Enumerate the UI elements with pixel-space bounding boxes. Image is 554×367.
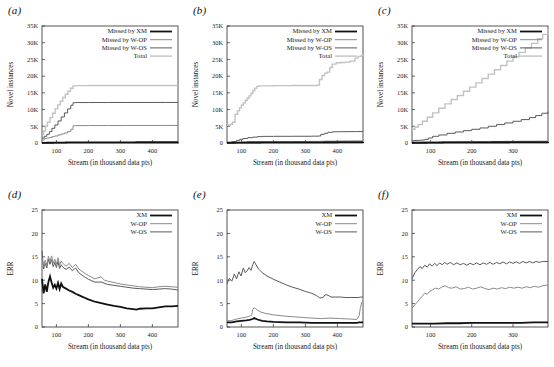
series-line-w-os: [412, 261, 548, 278]
x-tick-label: 100: [52, 147, 62, 154]
legend-label: Missed by XM: [292, 27, 332, 34]
x-tick-label: 200: [84, 331, 94, 338]
x-tick-label: 100: [237, 147, 247, 154]
plot-frame: [412, 210, 548, 327]
x-tick-label: 300: [508, 147, 518, 154]
x-tick-label: 100: [237, 331, 247, 338]
y-tick-label: 25K: [212, 56, 223, 63]
y-tick-label: 15: [402, 253, 408, 260]
legend-label: Missed by W-OP: [102, 36, 148, 43]
legend-label: XM: [506, 211, 517, 218]
panel-f: (f) 0510152025100200300Stream (in thousa…: [370, 184, 554, 367]
y-tick-label: 35K: [27, 22, 38, 29]
y-tick-label: 20K: [212, 72, 223, 79]
legend-label: Missed by XM: [107, 27, 147, 34]
x-axis-title: Stream (in thousand data pts): [438, 343, 523, 351]
panel-c: (c) 05K10K15K20K25K30K35K100200300Stream…: [370, 0, 554, 183]
panel-c-plot: 05K10K15K20K25K30K35K100200300Stream (in…: [370, 0, 554, 183]
y-tick-label: 10: [217, 277, 223, 284]
panel-d-plot: 0510152025100200300400Stream (in thousan…: [0, 184, 184, 367]
y-axis-title: ERR: [192, 261, 200, 275]
legend-label: W-OP: [316, 220, 333, 227]
y-tick-label: 10: [32, 277, 38, 284]
y-tick-label: 0: [220, 323, 223, 330]
legend-label: Missed by W-OP: [472, 36, 518, 43]
panel-e-plot: 0510152025100200300400Stream (in thousan…: [185, 184, 369, 367]
x-tick-label: 200: [467, 147, 477, 154]
y-tick-label: 20: [217, 230, 223, 237]
y-tick-label: 25K: [397, 56, 408, 63]
x-axis-title: Stream (in thousand data pts): [438, 159, 523, 167]
y-tick-label: 20: [402, 230, 408, 237]
y-tick-label: 0: [405, 323, 408, 330]
y-axis-title: Novel instances: [7, 61, 15, 107]
legend-label: W-OS: [501, 228, 518, 235]
x-tick-label: 400: [333, 331, 343, 338]
y-tick-label: 10: [402, 277, 408, 284]
x-axis-title: Stream (in thousand data pts): [68, 343, 153, 351]
y-tick-label: 5K: [30, 123, 38, 130]
legend-label: W-OS: [316, 228, 333, 235]
legend-label: Missed by XM: [477, 27, 517, 34]
panel-b: (b) 05K10K15K20K25K30K35K100200300400Str…: [185, 0, 369, 183]
legend-label: Total: [504, 52, 518, 59]
y-tick-label: 10K: [27, 106, 38, 113]
y-tick-label: 20K: [397, 72, 408, 79]
y-tick-label: 15: [32, 253, 38, 260]
x-tick-label: 200: [467, 331, 477, 338]
series-line-missed-by-xm: [412, 142, 548, 143]
x-tick-label: 400: [148, 147, 158, 154]
panel-b-plot: 05K10K15K20K25K30K35K100200300400Stream …: [185, 0, 369, 183]
series-line-missed-by-xm: [227, 142, 363, 143]
x-tick-label: 400: [333, 147, 343, 154]
series-line-w-op: [412, 285, 548, 308]
y-axis-title: ERR: [377, 261, 385, 275]
x-axis-title: Stream (in thousand data pts): [68, 159, 153, 167]
y-axis-title: Novel instances: [192, 61, 200, 107]
y-axis-title: ERR: [7, 261, 15, 275]
x-tick-label: 400: [148, 331, 158, 338]
legend-label: Missed by W-OS: [102, 44, 148, 51]
plot-frame: [42, 210, 178, 327]
panel-d: (d) 0510152025100200300400Stream (in tho…: [0, 184, 184, 367]
panel-e: (e) 0510152025100200300400Stream (in tho…: [185, 184, 369, 367]
y-tick-label: 5: [35, 300, 38, 307]
x-tick-label: 300: [301, 331, 311, 338]
y-tick-label: 15: [217, 253, 223, 260]
y-tick-label: 15K: [397, 89, 408, 96]
y-tick-label: 0: [405, 139, 408, 146]
legend-label: XM: [136, 211, 147, 218]
y-tick-label: 25: [402, 206, 408, 213]
x-tick-label: 300: [116, 147, 126, 154]
x-tick-label: 300: [301, 147, 311, 154]
y-tick-label: 20K: [27, 72, 38, 79]
legend-label: W-OP: [501, 220, 518, 227]
y-tick-label: 15K: [212, 89, 223, 96]
x-tick-label: 200: [269, 147, 279, 154]
legend-label: W-OP: [131, 220, 148, 227]
y-tick-label: 35K: [212, 22, 223, 29]
x-tick-label: 100: [426, 147, 436, 154]
y-tick-label: 25: [32, 206, 38, 213]
legend-label: Missed by W-OS: [287, 44, 333, 51]
panel-a: (a) 05K10K15K20K25K30K35K100200300400Str…: [0, 0, 184, 183]
x-tick-label: 300: [508, 331, 518, 338]
x-tick-label: 100: [426, 331, 436, 338]
x-axis-title: Stream (in thousand data pts): [253, 159, 338, 167]
y-tick-label: 0: [220, 139, 223, 146]
y-tick-label: 5K: [215, 123, 223, 130]
y-tick-label: 25: [217, 206, 223, 213]
series-line-w-os: [227, 261, 363, 298]
series-line-total: [227, 55, 363, 125]
panel-f-plot: 0510152025100200300Stream (in thousand d…: [370, 184, 554, 367]
x-tick-label: 200: [84, 147, 94, 154]
panel-a-plot: 05K10K15K20K25K30K35K100200300400Stream …: [0, 0, 184, 183]
y-tick-label: 0: [35, 139, 38, 146]
y-tick-label: 30K: [397, 39, 408, 46]
y-axis-title: Novel instances: [377, 61, 385, 107]
legend-label: Missed by W-OP: [287, 36, 333, 43]
legend-label: W-OS: [131, 228, 148, 235]
plot-frame: [227, 210, 363, 327]
series-line-missed-by-w-os: [42, 102, 178, 138]
y-tick-label: 30K: [27, 39, 38, 46]
